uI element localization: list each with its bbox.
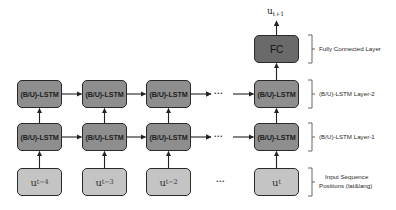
lstm1-cell: (B/U)-LSTM: [82, 123, 127, 151]
fc-label: FC: [270, 44, 283, 55]
output-label: ut+1: [267, 6, 284, 17]
input-sub: t−2: [166, 178, 178, 186]
lstm2-cell: (B/U)-LSTM: [146, 80, 191, 108]
lstm2-cell: (B/U)-LSTM: [82, 80, 127, 108]
lstm2-cell: (B/U)-LSTM: [254, 80, 299, 108]
label-lstm-layer2: (B/U)-LSTM Layer-2: [319, 90, 375, 98]
lstm-label: (B/U)-LSTM: [257, 90, 295, 99]
bracket-lstm1: [308, 123, 315, 151]
lstm-label: (B/U)-LSTM: [20, 90, 58, 99]
lstm-label: (B/U)-LSTM: [85, 90, 123, 99]
lstm-label: (B/U)-LSTM: [149, 90, 187, 99]
fc-box: FC: [254, 35, 299, 63]
bracket-input: [308, 168, 315, 196]
lstm-label: (B/U)-LSTM: [257, 133, 295, 142]
input-cell: ut: [254, 168, 299, 196]
input-sub: t−4: [37, 178, 49, 186]
lstm2-cell: (B/U)-LSTM: [17, 80, 62, 108]
label-fc-layer: Fully Connected Layer: [319, 45, 381, 53]
lstm1-cell: (B/U)-LSTM: [254, 123, 299, 151]
label-input-line2: Positions (lat&lang): [319, 182, 372, 190]
ellipsis-layer1: ...: [214, 129, 223, 139]
bracket-lstm2: [308, 80, 315, 108]
lstm-label: (B/U)-LSTM: [20, 133, 58, 142]
lstm-label: (B/U)-LSTM: [149, 133, 187, 142]
output-label-sub: t+1: [273, 10, 284, 17]
input-sub: t: [278, 178, 281, 186]
lstm1-cell: (B/U)-LSTM: [17, 123, 62, 151]
input-cell: ut−4: [17, 168, 62, 196]
lstm1-cell: (B/U)-LSTM: [146, 123, 191, 151]
bracket-fc: [308, 35, 315, 63]
lstm-label: (B/U)-LSTM: [85, 133, 123, 142]
ellipsis-layer2: ...: [214, 86, 223, 96]
input-cell: ut−2: [146, 168, 191, 196]
label-input-line1: Input Sequence: [325, 173, 368, 181]
label-lstm-layer1: (B/U)-LSTM Layer-1: [319, 133, 375, 141]
ellipsis-input: ...: [216, 174, 225, 184]
input-cell: ut−3: [82, 168, 127, 196]
input-sub: t−3: [102, 178, 114, 186]
